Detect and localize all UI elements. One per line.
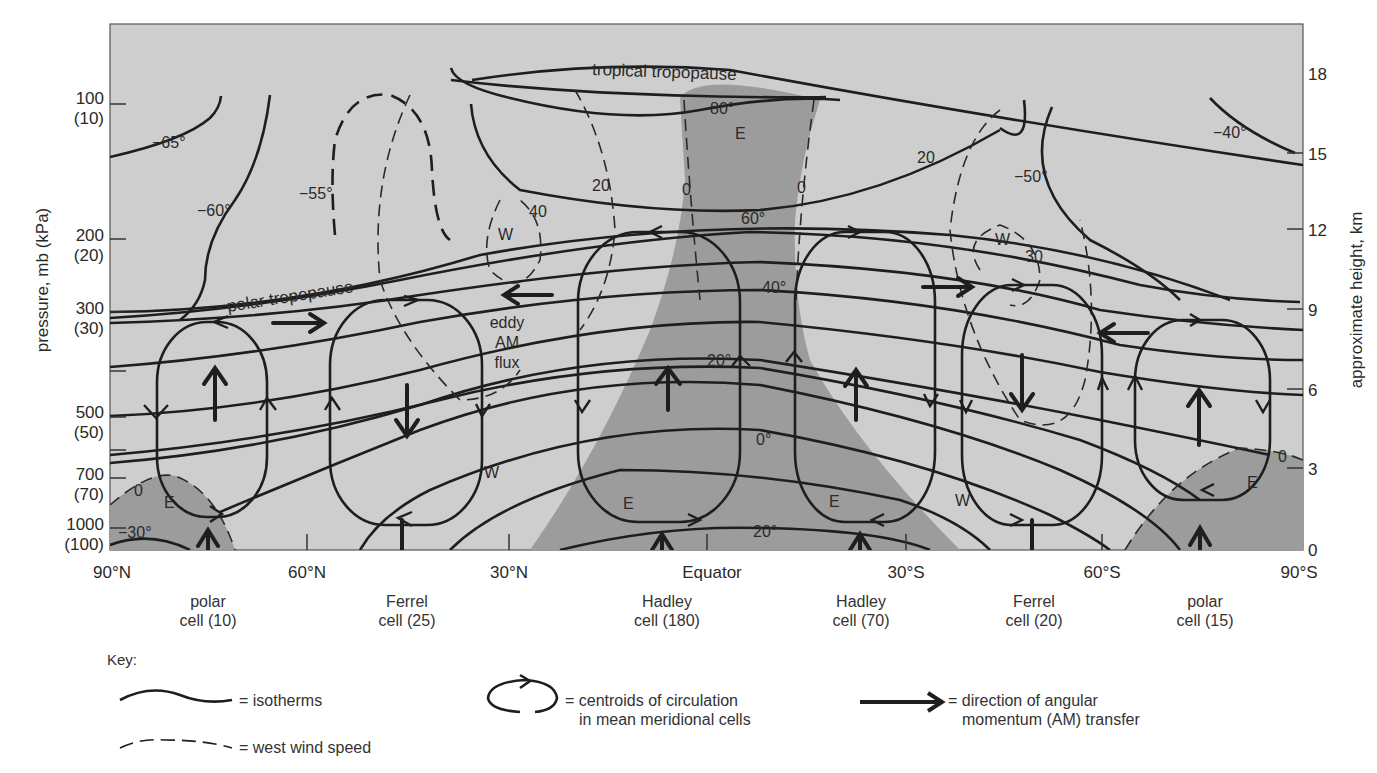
left-axis-labels: 100 (10) 200 (20) 300 (30) 500 (50) 700 … xyxy=(64,89,104,554)
svg-text:flux: flux xyxy=(495,354,520,371)
svg-text:60°S: 60°S xyxy=(1083,563,1120,582)
svg-text:90°N: 90°N xyxy=(93,563,131,582)
key-centroids-label: = centroids of circulation in mean merid… xyxy=(565,691,751,729)
key-isotherms-label: = isotherms xyxy=(239,691,322,710)
svg-text:−50°: −50° xyxy=(1014,168,1048,185)
svg-text:E: E xyxy=(164,494,175,511)
svg-text:1000: 1000 xyxy=(66,515,104,534)
svg-text:(10): (10) xyxy=(74,109,104,128)
svg-text:Equator: Equator xyxy=(682,563,742,582)
svg-text:0: 0 xyxy=(797,179,806,196)
svg-text:90°S: 90°S xyxy=(1280,563,1317,582)
svg-text:80°: 80° xyxy=(710,100,734,117)
key-am-label: = direction of angular momentum (AM) tra… xyxy=(948,691,1140,729)
svg-text:−55°: −55° xyxy=(299,185,333,202)
svg-text:20: 20 xyxy=(592,177,610,194)
svg-text:15: 15 xyxy=(1308,145,1327,164)
bottom-axis-labels: 90°N 60°N 30°N Equator 30°S 60°S 90°S xyxy=(93,563,1318,582)
svg-text:E: E xyxy=(623,495,634,512)
svg-text:30°S: 30°S xyxy=(887,563,924,582)
svg-text:AM: AM xyxy=(495,334,519,351)
svg-text:0: 0 xyxy=(1278,448,1287,465)
left-axis-title: pressure, mb (kPa) xyxy=(33,208,52,353)
svg-text:6: 6 xyxy=(1308,381,1317,400)
svg-text:0: 0 xyxy=(134,482,143,499)
svg-text:300: 300 xyxy=(76,299,104,318)
svg-text:E: E xyxy=(829,493,840,510)
cell-label-polar-north: polarcell (10) xyxy=(148,592,268,630)
cell-label-ferrel-south: Ferrelcell (20) xyxy=(974,592,1094,630)
svg-text:0: 0 xyxy=(682,181,691,198)
right-axis-labels: 18 15 12 9 6 3 0 xyxy=(1308,65,1327,560)
key-west-wind-label: = west wind speed xyxy=(239,738,371,757)
svg-text:(50): (50) xyxy=(74,423,104,442)
svg-text:0: 0 xyxy=(1308,541,1317,560)
key-am-arrow-symbol xyxy=(860,693,942,711)
cell-label-polar-south: polarcell (15) xyxy=(1145,592,1265,630)
svg-text:W: W xyxy=(955,492,971,509)
svg-text:500: 500 xyxy=(76,403,104,422)
svg-text:40°: 40° xyxy=(762,279,786,296)
key-isotherm-symbol xyxy=(120,691,232,702)
cell-label-hadley-north: Hadleycell (180) xyxy=(607,592,727,630)
cell-label-ferrel-north: Ferrelcell (25) xyxy=(347,592,467,630)
svg-text:30: 30 xyxy=(1025,248,1043,265)
svg-text:12: 12 xyxy=(1308,221,1327,240)
svg-text:E: E xyxy=(735,125,746,142)
svg-text:W: W xyxy=(498,226,514,243)
key-west-wind-symbol xyxy=(120,740,232,748)
svg-text:700: 700 xyxy=(76,465,104,484)
svg-text:W: W xyxy=(484,464,500,481)
svg-text:3: 3 xyxy=(1308,460,1317,479)
svg-text:18: 18 xyxy=(1308,65,1327,84)
svg-text:60°: 60° xyxy=(741,210,765,227)
svg-text:−40°: −40° xyxy=(1213,124,1247,141)
svg-text:(70): (70) xyxy=(74,485,104,504)
svg-text:60°N: 60°N xyxy=(288,563,326,582)
svg-text:−60°: −60° xyxy=(197,202,231,219)
svg-text:200: 200 xyxy=(76,226,104,245)
svg-text:20°: 20° xyxy=(753,523,777,540)
svg-text:20°: 20° xyxy=(707,352,731,369)
svg-text:−65°: −65° xyxy=(152,134,186,151)
svg-text:(30): (30) xyxy=(74,319,104,338)
svg-text:40: 40 xyxy=(529,203,547,220)
key-title: Key: xyxy=(107,651,137,668)
svg-text:(100): (100) xyxy=(64,535,104,554)
svg-text:eddy: eddy xyxy=(490,314,525,331)
svg-text:100: 100 xyxy=(76,89,104,108)
svg-text:20: 20 xyxy=(917,149,935,166)
svg-text:9: 9 xyxy=(1308,301,1317,320)
svg-text:W: W xyxy=(995,231,1011,248)
svg-text:30°N: 30°N xyxy=(490,563,528,582)
svg-text:E: E xyxy=(1247,474,1258,491)
svg-text:(20): (20) xyxy=(74,246,104,265)
right-axis-title: approximate height, km xyxy=(1347,212,1366,389)
cell-label-hadley-south: Hadleycell (70) xyxy=(801,592,921,630)
svg-text:−30°: −30° xyxy=(118,524,152,541)
svg-text:0°: 0° xyxy=(756,431,771,448)
meridional-circulation-diagram: 100 (10) 200 (20) 300 (30) 500 (50) 700 … xyxy=(0,0,1377,773)
